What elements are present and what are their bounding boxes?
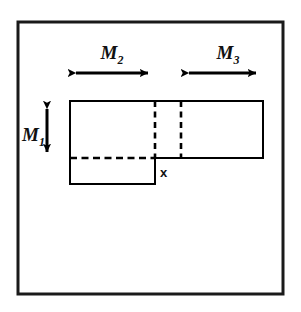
- x-point-label: x: [160, 165, 168, 180]
- diagram-canvas: M2 M3 M1: [0, 0, 301, 312]
- m2-label-subscript: 2: [116, 53, 123, 67]
- m3-label-subscript: 3: [232, 53, 239, 67]
- m2-label-base: M: [100, 42, 119, 63]
- m1-label-subscript: 1: [39, 135, 45, 149]
- figure-root: M2 M3 M1: [0, 0, 301, 312]
- m1-label-base: M: [21, 124, 40, 145]
- m3-label-base: M: [216, 42, 235, 63]
- figure-background: [0, 0, 301, 312]
